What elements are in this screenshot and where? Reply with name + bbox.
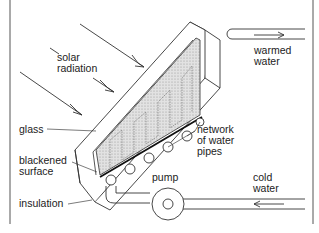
label-pump: pump — [152, 172, 178, 183]
label-warmed-water: warmed water — [254, 45, 291, 67]
label-solar-radiation: solar radiation — [57, 52, 97, 74]
warmed-water-pipe — [227, 29, 305, 39]
label-blackened-surface: blackened surface — [19, 155, 67, 177]
pump-icon — [152, 188, 184, 220]
label-glass: glass — [19, 124, 44, 135]
label-network-of-water-pipes: network of water pipes — [197, 124, 234, 157]
label-insulation: insulation — [19, 198, 63, 209]
solar-panel-diagram: solar radiation warmed water glass netwo… — [0, 0, 319, 233]
label-cold-water: cold water — [253, 172, 279, 194]
